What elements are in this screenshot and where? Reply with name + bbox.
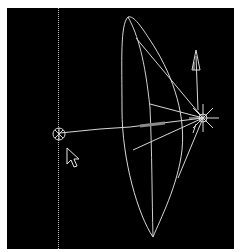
cone-edge-line-mid xyxy=(150,104,203,118)
direction-arrow-icon[interactable] xyxy=(192,50,200,110)
mouse-pointer-icon xyxy=(67,148,79,167)
3d-viewport[interactable]: spotlight target xyxy=(7,8,234,249)
target-direction-line xyxy=(60,118,203,133)
direction-shaft-highlight xyxy=(140,123,165,126)
circle-target-icon[interactable] xyxy=(53,128,65,140)
sun-star-icon[interactable] xyxy=(189,104,219,133)
viewport-canvas[interactable] xyxy=(7,8,234,249)
